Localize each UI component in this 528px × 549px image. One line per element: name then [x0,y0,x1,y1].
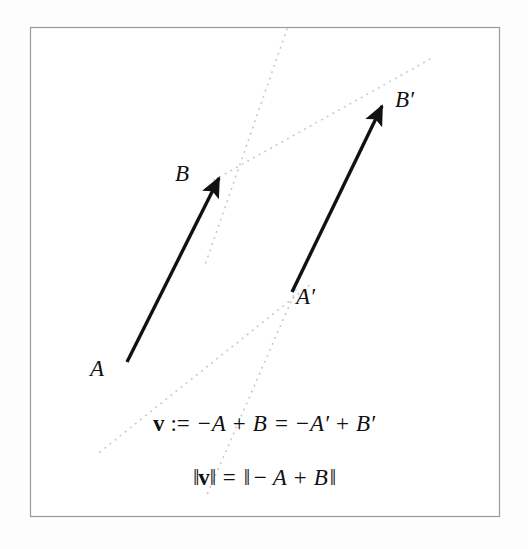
equation-line-1: v:=−A+B=−A′+B′ [0,412,528,435]
point-label-A-prime-mark: ′ [310,284,315,309]
point-label-A-prime: A′ [296,285,315,308]
equation-line-2: ‖v‖=‖−A+B‖ [0,466,528,489]
eq2-minus: − [254,465,267,490]
eq2-plus: + [294,465,307,490]
eq1-vector-symbol: v [153,411,165,436]
figure-container: A B A′ B′ v:=−A+B=−A′+B′ ‖v‖=‖−A+B‖ [0,0,528,549]
point-label-B: B [175,162,189,185]
point-label-A-prime-base: A [296,284,310,309]
eq1-term-A-prime: A′ [310,411,329,436]
eq2-vector-symbol: v [198,465,210,490]
eq1-plus-1: + [233,411,246,436]
point-label-B-prime: B′ [395,88,414,111]
eq2-norm-close-1: ‖ [210,465,215,490]
point-label-A: A [90,357,104,380]
eq1-defined-as: := [170,411,189,436]
eq1-term-B: B [253,411,267,436]
eq2-norm-close-2: ‖ [330,465,335,490]
eq2-norm-open-2: ‖ [244,465,249,490]
eq2-equals: = [223,465,236,490]
equation-line-1-row: v:=−A+B=−A′+B′ [153,412,375,435]
eq1-plus-2: + [336,411,349,436]
point-label-B-prime-base: B [395,87,409,112]
eq1-minus-1: − [198,411,211,436]
point-label-B-prime-mark: ′ [409,87,414,112]
eq1-term-B-prime: B′ [356,411,375,436]
eq1-term-A: A [212,411,226,436]
eq1-minus-2: − [296,411,309,436]
equation-line-2-row: ‖v‖=‖−A+B‖ [193,466,335,489]
eq1-equals: = [275,411,288,436]
eq2-term-A: A [273,465,287,490]
eq2-term-B: B [314,465,328,490]
figure-border [31,28,500,517]
